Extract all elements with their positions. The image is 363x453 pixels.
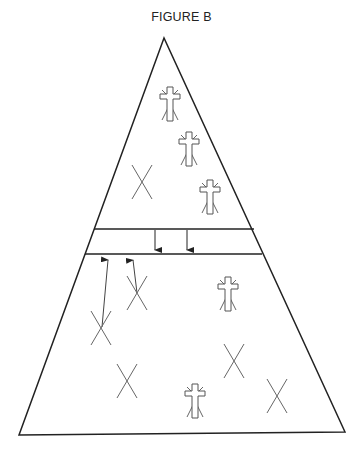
cross-symbol	[200, 180, 220, 214]
x-symbol	[267, 379, 287, 413]
cross-symbol	[179, 132, 199, 166]
x-symbol	[127, 276, 147, 310]
triangle-outline	[19, 38, 345, 435]
x-symbol	[132, 165, 152, 199]
cross-symbol	[185, 384, 205, 418]
figure-diagram	[0, 0, 363, 453]
x-symbol	[117, 364, 137, 398]
cross-symbol	[218, 277, 238, 311]
x-symbol	[224, 344, 244, 378]
cross-symbol	[160, 87, 180, 121]
x-symbol	[91, 311, 111, 345]
